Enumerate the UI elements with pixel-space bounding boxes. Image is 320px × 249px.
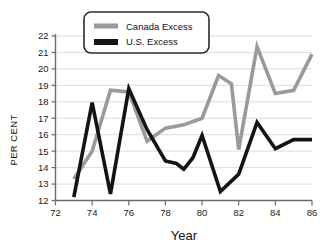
y-axis-title: PER CENT — [8, 114, 19, 165]
y-tick-label: 17 — [38, 113, 49, 124]
y-tick-label: 12 — [38, 195, 49, 206]
x-tick-label: 74 — [87, 207, 98, 218]
legend-label-canada: Canada Excess — [126, 21, 193, 32]
y-tick-label: 16 — [38, 129, 49, 140]
canada-swatch — [94, 24, 118, 29]
x-axis-ticks: 7274767880828486 — [50, 201, 317, 218]
y-tick-label: 13 — [38, 178, 49, 189]
y-tick-label: 20 — [38, 63, 49, 74]
x-tick-label: 76 — [123, 207, 134, 218]
chart-container: 1213141516171819202122 7274767880828486 … — [0, 0, 320, 249]
y-tick-label: 14 — [38, 162, 49, 173]
x-tick-label: 78 — [160, 207, 171, 218]
y-tick-label: 22 — [38, 30, 49, 41]
y-axis-ticks: 1213141516171819202122 — [38, 30, 56, 206]
y-tick-label: 18 — [38, 96, 49, 107]
x-tick-label: 84 — [270, 207, 281, 218]
series-line-us-excess — [74, 89, 312, 198]
x-tick-label: 72 — [50, 207, 61, 218]
x-tick-label: 80 — [197, 207, 208, 218]
us-swatch — [94, 39, 118, 45]
x-tick-label: 82 — [233, 207, 244, 218]
legend: Canada Excess U.S. Excess — [84, 12, 209, 53]
legend-label-us: U.S. Excess — [126, 36, 178, 47]
y-tick-label: 19 — [38, 80, 49, 91]
y-tick-label: 15 — [38, 146, 49, 157]
x-tick-label: 86 — [307, 207, 318, 218]
y-tick-label: 21 — [38, 47, 49, 58]
x-axis-title: Year — [171, 228, 198, 243]
line-chart: 1213141516171819202122 7274767880828486 … — [0, 0, 320, 249]
